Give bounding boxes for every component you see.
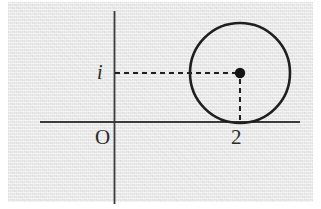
complex-plane-figure: i O 2 <box>0 0 321 209</box>
center-point-marker <box>235 68 245 78</box>
complex-plane-plot <box>0 0 321 209</box>
imaginary-unit-label: i <box>97 62 103 82</box>
real-point-label: 2 <box>231 127 242 148</box>
origin-label: O <box>95 127 110 148</box>
